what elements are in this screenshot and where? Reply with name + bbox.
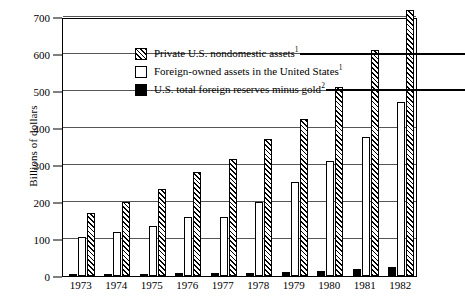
bar-1976-series-1 [184, 217, 192, 276]
bar-1978-series-1 [255, 202, 263, 276]
bar-1975-series-2 [158, 189, 166, 276]
legend-item-foreign-reserves-minus-gold: U.S. total foreign reserves minus gold2 [135, 81, 465, 98]
bar-1974-series-0 [104, 274, 112, 277]
bar-1973-series-0 [69, 274, 77, 277]
bar-1976-series-2 [193, 172, 201, 276]
legend-leader-line-3 [326, 89, 465, 90]
bar-1979-series-1 [291, 182, 299, 276]
plot-area: Private U.S. nondomestic assets1 Foreign… [62, 18, 417, 277]
legend-item-foreign-owned-assets: Foreign-owned assets in the United State… [135, 63, 465, 80]
bar-1978-series-2 [264, 139, 272, 276]
chart-legend: Private U.S. nondomestic assets1 Foreign… [135, 45, 465, 99]
gridline-700 [63, 16, 416, 17]
legend-swatch-solid-icon [135, 84, 147, 96]
bar-1982-series-1 [397, 102, 405, 276]
bar-1981-series-0 [353, 269, 361, 276]
bar-1979-series-2 [300, 119, 308, 276]
bar-1977-series-2 [229, 159, 237, 276]
y-tick-label-200: 200 [6, 198, 50, 209]
bar-1980-series-0 [317, 271, 325, 276]
bar-1975-series-1 [149, 226, 157, 276]
bar-1974-series-2 [122, 202, 130, 276]
y-tick-mark-500 [53, 92, 62, 93]
bar-1982-series-0 [388, 267, 396, 276]
x-axis-tick-labels: 1973197419751976197719781979198019811982 [62, 280, 417, 300]
bar-1977-series-1 [220, 217, 228, 276]
legend-swatch-hatched-icon [135, 48, 147, 60]
legend-item-private-nondomestic-assets: Private U.S. nondomestic assets1 [135, 45, 465, 62]
y-tick-mark-100 [53, 240, 62, 241]
y-tick-mark-600 [53, 55, 62, 56]
y-axis-tick-labels: 0100200300400500600700 [0, 18, 62, 277]
bar-1980-series-1 [326, 161, 334, 276]
legend-leader-line-2 [344, 71, 465, 72]
legend-leader-line-1 [300, 53, 465, 54]
y-tick-label-500: 500 [6, 87, 50, 98]
y-tick-mark-400 [53, 129, 62, 130]
y-tick-mark-200 [53, 203, 62, 204]
bar-1981-series-1 [362, 137, 370, 276]
y-tick-label-0: 0 [6, 272, 50, 283]
y-tick-label-400: 400 [6, 124, 50, 135]
legend-label-foreign-owned-assets: Foreign-owned assets in the United State… [154, 66, 343, 77]
y-tick-label-600: 600 [6, 50, 50, 61]
legend-label-private-nondomestic-assets: Private U.S. nondomestic assets1 [154, 48, 299, 59]
bar-1976-series-0 [175, 273, 183, 276]
bar-1979-series-0 [282, 272, 290, 276]
legend-label-foreign-reserves-minus-gold: U.S. total foreign reserves minus gold2 [154, 84, 325, 95]
y-tick-mark-700 [53, 18, 62, 19]
y-tick-label-100: 100 [6, 235, 50, 246]
bar-1974-series-1 [113, 232, 121, 276]
x-tick-label-1982: 1982 [378, 280, 422, 291]
y-tick-label-300: 300 [6, 161, 50, 172]
bar-1975-series-0 [140, 274, 148, 277]
y-tick-mark-0 [53, 277, 62, 278]
y-tick-mark-300 [53, 166, 62, 167]
bar-1980-series-2 [335, 87, 343, 276]
bar-1973-series-2 [87, 213, 95, 276]
bar-1978-series-0 [246, 273, 254, 276]
bar-1977-series-0 [211, 273, 219, 276]
y-tick-label-700: 700 [6, 13, 50, 24]
bar-1973-series-1 [78, 237, 86, 276]
legend-swatch-open-icon [135, 66, 147, 78]
